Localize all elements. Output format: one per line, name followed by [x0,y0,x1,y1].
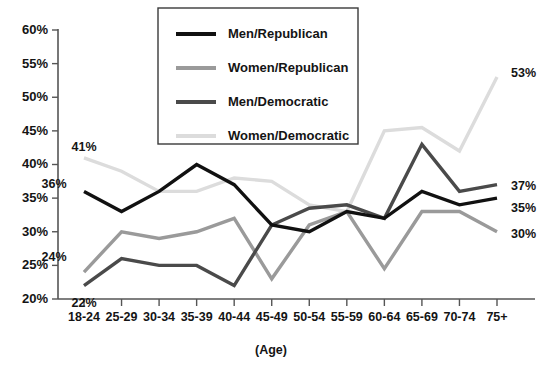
legend-label: Women/Republican [228,60,348,75]
y-tick-label: 40% [22,156,48,171]
data-point-label: 22% [71,296,96,310]
y-tick-label: 50% [22,89,48,104]
data-point-label: 35% [511,201,536,215]
x-tick-label: 25-29 [106,310,138,324]
x-tick-label: 70-74 [443,310,475,324]
x-tick-label: 45-49 [256,310,288,324]
x-tick-label: 18-24 [68,310,100,324]
y-tick-label: 30% [22,224,48,239]
x-tick-label: 55-59 [331,310,363,324]
legend-label: Women/Democratic [228,128,349,143]
data-point-label: 24% [41,250,66,264]
data-point-label: 41% [71,140,96,154]
series-line-men-democratic [84,144,497,285]
x-tick-label: 35-39 [181,310,213,324]
data-point-label: 53% [511,66,536,80]
chart-plot-area: 20%25%30%35%40%45%50%55%60% 18-2425-2930… [0,0,542,365]
x-tick-label: 40-44 [218,310,250,324]
series-line-men-republican [84,165,497,232]
y-tick-label: 55% [22,56,48,71]
y-tick-label: 20% [22,291,48,306]
data-point-label: 37% [511,179,536,193]
legend-label: Men/Democratic [228,94,328,109]
x-tick-label: 30-34 [143,310,175,324]
data-point-label: 30% [511,227,536,241]
x-axis-title: (Age) [255,343,287,357]
y-tick-label: 60% [22,22,48,37]
x-tick-label: 75+ [486,310,507,324]
chart-legend: Men/RepublicanWomen/RepublicanMen/Democr… [158,8,358,144]
x-tick-label: 60-64 [368,310,400,324]
y-tick-label: 45% [22,123,48,138]
y-tick-label: 35% [22,190,48,205]
series-line-women-republican [84,212,497,279]
legend-label: Men/Republican [228,26,328,41]
x-tick-label: 50-54 [293,310,325,324]
data-point-label: 36% [41,177,66,191]
x-tick-label: 65-69 [406,310,438,324]
line-chart: 20%25%30%35%40%45%50%55%60% 18-2425-2930… [0,0,542,365]
x-axis: 18-2425-2930-3435-3940-4445-4950-5455-59… [58,299,535,324]
